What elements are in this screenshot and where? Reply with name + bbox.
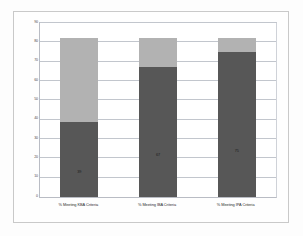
- y-axis-tick-label: 70: [34, 59, 38, 63]
- bar-value-label: 67: [139, 154, 177, 158]
- y-axis-tick-label: 90: [34, 21, 38, 25]
- y-axis-tick-label: 10: [34, 175, 38, 179]
- x-axis-category-label: % Meeting IBA Criteria: [118, 203, 197, 207]
- chart-frame: 9080706050403020100396775 % Meeting KBA …: [13, 11, 289, 223]
- bar-group[interactable]: 67: [139, 23, 177, 197]
- bar-group[interactable]: 75: [218, 23, 256, 197]
- bar-segment[interactable]: [60, 38, 98, 121]
- y-axis-tick-label: 40: [34, 117, 38, 121]
- y-axis-tick-label: 30: [34, 137, 38, 141]
- y-axis-tick-label: 80: [34, 40, 38, 44]
- bar-segment[interactable]: [139, 38, 177, 67]
- chart-figure: 9080706050403020100396775 % Meeting KBA …: [0, 0, 303, 236]
- bar-group[interactable]: 39: [60, 23, 98, 197]
- y-axis-tick-label: 50: [34, 98, 38, 102]
- category-axis: % Meeting KBA Criteria% Meeting IBA Crit…: [39, 203, 277, 215]
- bar-value-label: 39: [60, 171, 98, 175]
- bar-value-label: 75: [218, 150, 256, 154]
- bar-segment[interactable]: [139, 67, 177, 197]
- plot-area: 9080706050403020100396775: [39, 22, 277, 198]
- bar-segment[interactable]: [60, 122, 98, 197]
- y-axis-tick-label: 0: [36, 195, 38, 199]
- y-axis-tick-label: 20: [34, 156, 38, 160]
- bar-segment[interactable]: [218, 52, 256, 197]
- x-axis-category-label: % Meeting IPA Criteria: [196, 203, 275, 207]
- x-axis-category-label: % Meeting KBA Criteria: [39, 203, 118, 207]
- y-axis-tick-label: 60: [34, 79, 38, 83]
- bar-segment[interactable]: [218, 38, 256, 52]
